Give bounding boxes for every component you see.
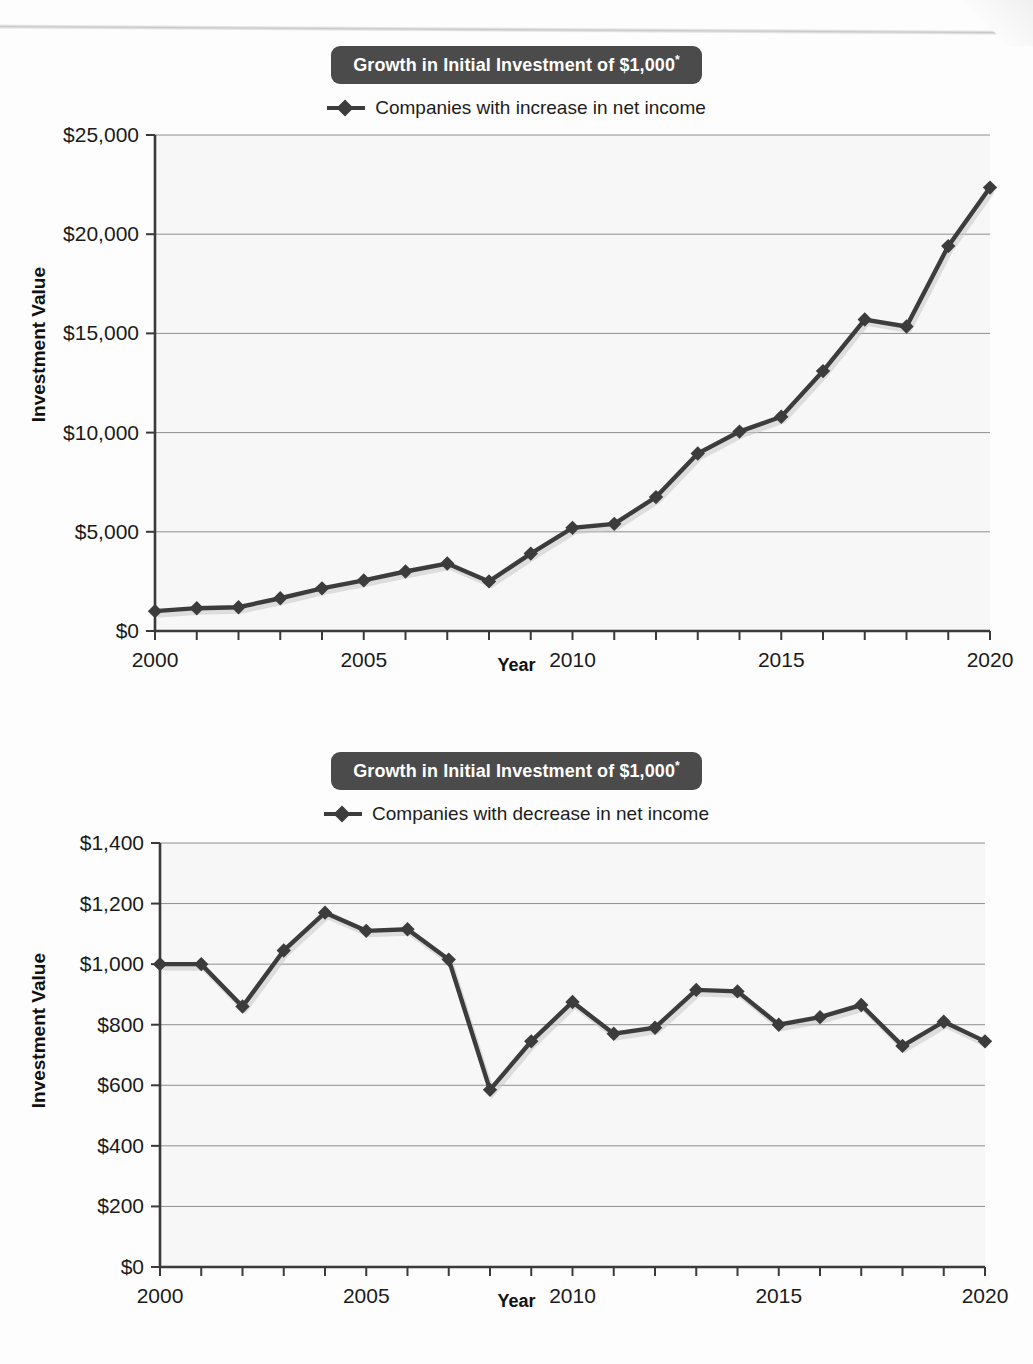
- scan-artifact-line: [0, 24, 1033, 35]
- plot-area-2: Investment Value $0$200$400$600$800$1,00…: [0, 833, 1033, 1323]
- y-axis-tick-label: $10,000: [63, 421, 139, 444]
- y-axis-tick-label: $1,000: [80, 952, 144, 975]
- y-axis-tick-label: $600: [97, 1073, 144, 1096]
- y-axis-label: Investment Value: [28, 267, 50, 422]
- chart-title-text: Growth in Initial Investment of $1,000: [353, 761, 675, 781]
- y-axis-tick-label: $15,000: [63, 321, 139, 344]
- y-axis-tick-label: $200: [97, 1194, 144, 1217]
- chart-title-container: Growth in Initial Investment of $1,000*: [0, 752, 1033, 790]
- y-axis-tick-label: $5,000: [75, 520, 139, 543]
- chart-title-container: Growth in Initial Investment of $1,000*: [0, 46, 1033, 84]
- x-axis-label: Year: [0, 655, 1033, 676]
- page-corner-fold: [963, 0, 1033, 46]
- chart-title-banner: Growth in Initial Investment of $1,000*: [331, 46, 702, 84]
- legend-diamond-marker-icon: [324, 807, 362, 821]
- chart-figure-increase: Growth in Initial Investment of $1,000* …: [0, 46, 1033, 736]
- y-axis-tick-label: $0: [116, 619, 139, 642]
- line-chart-increase: $0$5,000$10,000$15,000$20,000$25,0002000…: [0, 127, 1033, 687]
- y-axis-tick-label: $20,000: [63, 222, 139, 245]
- y-axis-tick-label: $1,400: [80, 833, 144, 854]
- y-axis-tick-label: $1,200: [80, 892, 144, 915]
- chart-legend: Companies with increase in net income: [0, 97, 1033, 119]
- chart-figure-decrease: Growth in Initial Investment of $1,000* …: [0, 752, 1033, 1364]
- y-axis-label: Investment Value: [28, 953, 50, 1108]
- line-chart-decrease: $0$200$400$600$800$1,000$1,200$1,4002000…: [0, 833, 1033, 1323]
- chart-title-banner: Growth in Initial Investment of $1,000*: [331, 752, 702, 790]
- chart-legend: Companies with decrease in net income: [0, 803, 1033, 825]
- chart-title-asterisk: *: [675, 759, 680, 773]
- chart-title-asterisk: *: [675, 53, 680, 67]
- y-axis-tick-label: $0: [121, 1255, 144, 1278]
- chart-title-text: Growth in Initial Investment of $1,000: [353, 55, 675, 75]
- legend-diamond-marker-icon: [327, 101, 365, 115]
- legend-label: Companies with decrease in net income: [372, 803, 709, 825]
- y-axis-tick-label: $25,000: [63, 127, 139, 146]
- legend-label: Companies with increase in net income: [375, 97, 706, 119]
- scanned-page: Growth in Initial Investment of $1,000* …: [0, 0, 1033, 1364]
- plot-area-1: Investment Value $0$5,000$10,000$15,000$…: [0, 127, 1033, 687]
- y-axis-tick-label: $800: [97, 1013, 144, 1036]
- x-axis-label: Year: [0, 1291, 1033, 1312]
- y-axis-tick-label: $400: [97, 1134, 144, 1157]
